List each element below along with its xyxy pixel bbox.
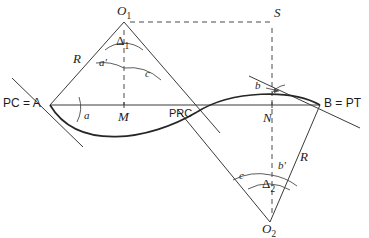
point-label-m: M xyxy=(118,110,129,123)
compound-curve-diagram: O1 S PC = A B = PT M PRC N O2 Δ1 a' c a … xyxy=(0,0,369,238)
angle-label-delta2: Δ2 xyxy=(262,177,275,194)
angle-arc-a-lower xyxy=(77,97,81,122)
point-label-n: N xyxy=(263,111,272,124)
radius-label-lower-right: R xyxy=(300,150,308,163)
angle-label-a-prime: a' xyxy=(99,57,107,68)
angle-label-c-upper: c xyxy=(145,68,150,79)
second-curve-arc xyxy=(197,94,320,112)
angle-label-c-lower: c xyxy=(239,170,244,181)
back-tangent-at-a xyxy=(12,78,83,147)
angle-label-b-prime: b' xyxy=(278,160,286,171)
point-label-prc: PRC xyxy=(169,108,192,119)
diagram-canvas xyxy=(0,0,369,238)
angle-arc-c-upper xyxy=(124,68,161,80)
angle-label-a-lower: a xyxy=(84,110,90,121)
point-label-b-pt: B = PT xyxy=(324,97,361,109)
angle-label-delta1: Δ1 xyxy=(116,34,129,51)
point-label-o1: O1 xyxy=(117,4,131,21)
angle-label-b-upper: b xyxy=(255,80,261,91)
point-label-s: S xyxy=(274,6,281,19)
radius-o2-through-prc xyxy=(178,110,270,222)
point-label-pc-a: PC = A xyxy=(3,97,41,109)
point-label-o2: O2 xyxy=(262,222,276,238)
radius-label-upper-left: R xyxy=(73,52,81,65)
